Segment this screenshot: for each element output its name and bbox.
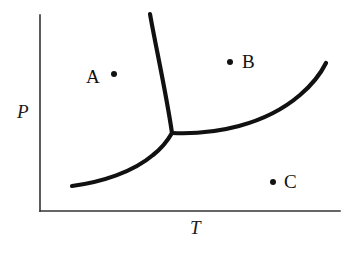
fusion-curve	[150, 14, 172, 133]
marker-dot-b	[227, 59, 233, 65]
phase-diagram-figure: P T A B C	[0, 0, 356, 254]
marker-label-c: C	[284, 172, 297, 191]
marker-label-b: B	[242, 52, 255, 71]
marker-label-a: A	[86, 67, 100, 86]
phase-diagram-plot	[0, 0, 356, 254]
marker-dot-a	[111, 71, 117, 77]
x-axis-label: T	[190, 218, 201, 237]
y-axis-label: P	[17, 102, 29, 121]
vaporization-curve	[172, 63, 326, 133]
marker-dot-c	[270, 179, 276, 185]
sublimation-curve	[72, 133, 172, 186]
